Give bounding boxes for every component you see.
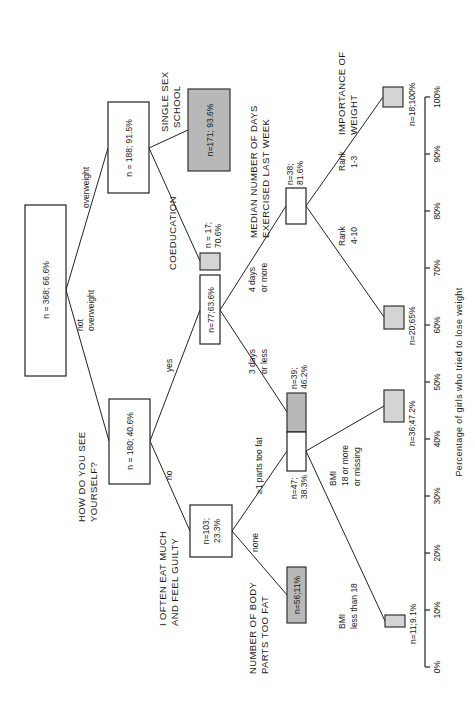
edge-label-bmi-ge-2: 18 or more [340,445,350,486]
node-parts-none-label: n=56;11% [292,576,302,614]
svg-text:SCHOOL: SCHOOL [171,85,182,128]
axis-tick-label: 20% [432,544,442,561]
node-days-4-label-1: n=38; [285,163,295,185]
node-parts-ge1-label-2: 38.3% [299,474,309,499]
node-single-sex-label: n=171; 93.6% [205,103,215,156]
node-root: n = 368; 66.6% [25,205,66,376]
node-days-4-label-2: 81.6% [295,160,305,185]
node-rank-4-10: n=20;65% [384,306,417,345]
node-overweight-label: n = 188; 91.5% [124,119,134,177]
svg-text:YOURSELF?: YOURSELF? [88,462,99,522]
node-no-guilt-label-1: n=103; [201,518,211,544]
question-body-parts: NUMBER OF BODY PARTS TOO FAT [247,582,270,674]
node-coeducation: n = 17; 70.6% [200,222,223,270]
edge-label-bmi-ge-1: BMI [328,471,338,486]
question-eat-guilty: I OFTEN EAT MUCH AND FEEL GUILTY [157,531,180,626]
edge-label-overweight: overweight [81,166,91,208]
question-exercise: MEDIAN NUMBER OF DAYS EXERCISED LAST WEE… [248,105,271,238]
node-rank-1-3: n=18;100% [383,82,417,126]
node-not-overweight-label: n = 180; 40.6% [125,412,135,470]
edge-label-rank-410-2: 4-10 [349,227,359,244]
edge-label-bmi-lt-2: less than 18 [349,583,359,629]
edge-label-3-days-1: 3 days [247,349,257,374]
node-days-3-label-1: n=39; [289,367,299,389]
node-root-label: n = 368; 66.6% [41,261,51,319]
edge-bmi-ge-18 [306,406,384,451]
axis-tick-label: 0% [432,660,442,673]
edge-label-4-days-2: or more [259,262,269,292]
question-importance: IMPORTANCE OF WEIGHT [336,52,359,136]
svg-text:NUMBER OF BODY: NUMBER OF BODY [247,582,258,674]
node-days-4-more: n=38; 81.6% [285,160,306,224]
node-bmi-ge18-label: n=36;47.2% [407,400,417,446]
node-not-overweight: n = 180; 40.6% [109,399,150,484]
node-bmi-ge18: n=36;47.2% [384,390,417,446]
node-bmi-lt18: n=11;9.1% [385,603,418,644]
svg-text:EXERCISED LAST WEEK: EXERCISED LAST WEEK [260,118,271,238]
edge-label-none: none [250,533,260,552]
node-no-guilt: n=103; 23.3% [190,505,232,557]
node-coeducation-label-2: 70.6% [213,223,223,248]
svg-text:WEIGHT: WEIGHT [348,95,359,135]
node-yes-guilt-label: n=77;63.6% [206,287,216,333]
edge-label-bmi-ge-3: or missing [352,447,362,486]
svg-text:COEDUCATION: COEDUCATION [167,196,178,270]
axis-tick-label: 60% [432,316,442,333]
node-no-guilt-label-2: 23.3% [212,519,222,544]
edge-label-not-2: overweight [86,289,96,331]
node-rank-4-10-label: n=20;65% [407,306,417,345]
axis-tick-label: 30% [432,487,442,504]
edge-label-bmi-lt-1: BMI [337,614,347,629]
percentage-axis: 0% 10% 20% 30% 40% 50% 60% 70% 80% 90% 1… [425,86,464,673]
edge-label-rank-410-1: Rank [337,225,347,246]
edge-rank-4-10 [306,206,384,317]
edge-no [150,441,190,531]
node-yes-guilt: n=77;63.6% [200,275,220,344]
svg-text:PARTS TOO FAT: PARTS TOO FAT [259,596,270,674]
question-coeducation: COEDUCATION [167,196,178,270]
edge-label-3-days-2: or less [259,349,269,374]
node-coeducation-label-1: n = 17; [203,222,213,248]
node-overweight: n = 188; 91.5% [108,102,149,193]
edge-label-4-days-1: 4 days [247,267,257,292]
svg-text:AND FEEL GUILTY: AND FEEL GUILTY [169,537,180,626]
edge-label-yes: yes [164,359,174,372]
node-bmi-lt18-label: n=11;9.1% [408,603,418,644]
edge-label-rank-13-2: 1-3 [349,155,359,168]
svg-text:HOW DO YOU SEE: HOW DO YOU SEE [76,432,87,522]
decision-tree-diagram: n = 368; 66.6% n = 188; 91.5% n=171; 93.… [0,0,475,712]
axis-tick-label: 10% [432,601,442,618]
axis-tick-label: 100% [432,86,442,108]
node-days-3-label-2: 46.2% [299,364,309,389]
axis-tick-label: 50% [432,373,442,390]
edge-label-ge1-parts: ≥1 parts too fat [254,437,264,494]
axis-tick-label: 40% [432,430,442,447]
node-rank-1-3-label: n=18;100% [407,82,417,126]
node-single-sex: n=171; 93.6% [188,89,230,171]
svg-text:I OFTEN EAT MUCH: I OFTEN EAT MUCH [157,531,168,626]
edge-label-no: no [164,470,174,480]
question-single-sex: SINGLE SEX SCHOOL [159,71,182,132]
svg-text:SINGLE SEX: SINGLE SEX [159,71,170,132]
node-parts-none: n=56;11% [287,567,306,623]
edge-label-not-1: not [75,319,85,331]
node-parts-ge1-label-1: n=47; [289,477,299,499]
axis-title: Percentage of girls who tried to lose we… [454,287,464,476]
axis-tick-label: 90% [432,145,442,162]
edge-label-rank-13-1: Rank [337,150,347,171]
axis-tick-label: 70% [432,259,442,276]
svg-text:MEDIAN NUMBER OF DAYS: MEDIAN NUMBER OF DAYS [248,105,259,238]
question-how-see: HOW DO YOU SEE YOURSELF? [76,432,99,522]
node-parts-ge1: n=47; 38.3% [287,432,309,499]
node-days-3-less: n=39; 46.2% [287,364,309,432]
edge-yes [150,310,200,441]
svg-text:IMPORTANCE OF: IMPORTANCE OF [336,52,347,136]
axis-tick-label: 80% [432,202,442,219]
